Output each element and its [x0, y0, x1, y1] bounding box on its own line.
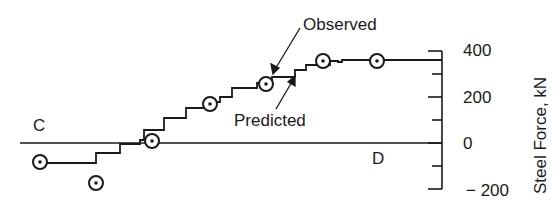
- point-d-label: D: [372, 150, 384, 167]
- point-c-label: C: [33, 117, 45, 134]
- tick-200: 200: [463, 89, 491, 106]
- tick-minus-200: − 200: [466, 182, 509, 199]
- observed-arrow: [271, 28, 300, 74]
- observed-label: Observed: [303, 16, 377, 33]
- tick-0: 0: [463, 135, 472, 152]
- tick-400: 400: [463, 42, 491, 59]
- observed-markers: [33, 54, 384, 190]
- y-axis-label: Steel Force, kN: [531, 77, 551, 194]
- y-axis: [428, 51, 442, 189]
- predicted-label: Predicted: [234, 112, 306, 129]
- predicted-arrow: [276, 76, 295, 109]
